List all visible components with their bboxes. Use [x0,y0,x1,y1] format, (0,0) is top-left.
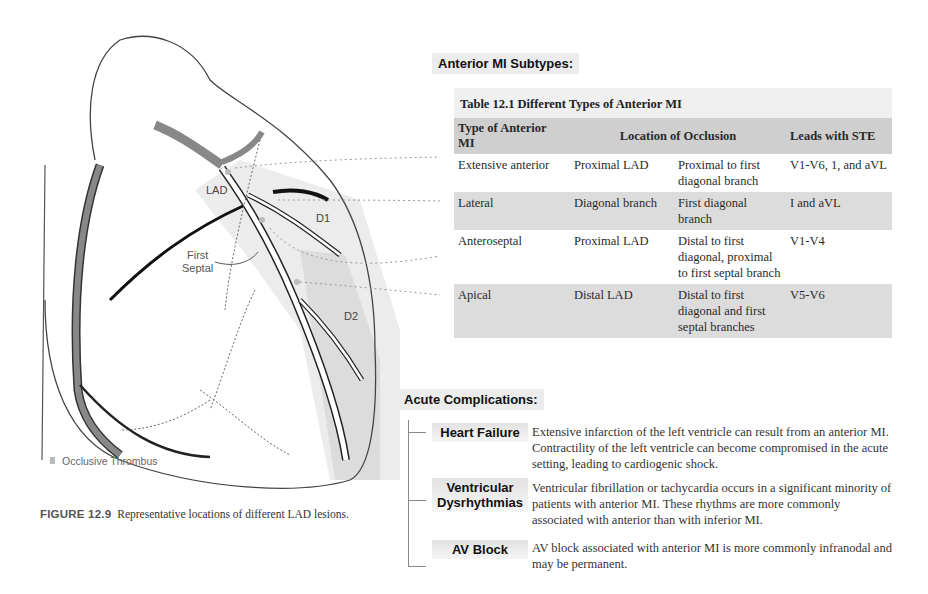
tree-branch [408,566,426,567]
cell-vessel: Distal LAD [570,284,674,338]
cell-vessel: Proximal LAD [570,154,674,192]
table-title: Table 12.1 Different Types of Anterior M… [454,88,892,118]
header-location: Location of Occlusion [570,118,786,154]
table-row: Extensive anterior Proximal LAD Proximal… [454,154,892,192]
complication-text-heart-failure: Extensive infarction of the left ventric… [532,424,892,472]
label-line-2: Dysrhythmias [432,495,528,510]
left-main-artery [155,125,222,165]
figure-caption: FIGURE 12.9Representative locations of d… [40,508,349,520]
complications-tree-line [408,420,409,566]
d2-label: D2 [344,310,358,322]
table-row: Anteroseptal Proximal LAD Distal to firs… [454,230,892,284]
complication-label-av-block: AV Block [432,540,528,559]
complication-label-dysrhythmias: Ventricular Dysrhythmias [432,478,528,512]
cell-leads: I and aVL [786,192,892,230]
tree-branch [408,500,426,501]
subtypes-heading: Anterior MI Subtypes: [432,53,579,74]
cell-leads: V1-V4 [786,230,892,284]
complication-text-av-block: AV block associated with anterior MI is … [532,540,892,572]
first-septal-label-1: First [187,249,208,261]
table-row: Lateral Diagonal branch First diagonal b… [454,192,892,230]
cell-type: Apical [454,284,570,338]
tree-branch [408,432,426,433]
header-type: Type of Anterior MI [454,118,570,154]
pointer-extensive [235,157,440,168]
subtypes-table: Type of Anterior MI Location of Occlusio… [454,118,892,338]
figure-number: FIGURE 12.9 [40,508,111,520]
cell-location: Distal to first diagonal, proximal to fi… [674,230,786,284]
subtypes-table-panel: Table 12.1 Different Types of Anterior M… [454,88,892,338]
pericardium-line [42,165,45,460]
table-header-row: Type of Anterior MI Location of Occlusio… [454,118,892,154]
cell-location: Proximal to first diagonal branch [674,154,786,192]
complications-heading: Acute Complications: [398,389,544,410]
thrombus-legend-swatch [50,457,55,464]
lad-label: LAD [206,184,227,196]
d1-label: D1 [316,212,330,224]
thrombus-legend-label: Occlusive Thrombus [62,455,158,467]
cell-leads: V5-V6 [786,284,892,338]
cell-vessel: Proximal LAD [570,230,674,284]
thrombus-marker [225,169,231,175]
header-leads: Leads with STE [786,118,892,154]
complication-label-heart-failure: Heart Failure [432,423,528,442]
label-line-1: Ventricular [432,480,528,495]
cell-vessel: Diagonal branch [570,192,674,230]
cell-location: First diagonal branch [674,192,786,230]
figure-caption-text: Representative locations of different LA… [117,508,349,520]
cell-type: Extensive anterior [454,154,570,192]
cell-location: Distal to first diagonal and first septa… [674,284,786,338]
marginal-artery [80,385,210,457]
cell-type: Anteroseptal [454,230,570,284]
first-septal-label-2: Septal [182,262,213,274]
table-row: Apical Distal LAD Distal to first diagon… [454,284,892,338]
cell-type: Lateral [454,192,570,230]
complication-text-dysrhythmias: Ventricular fibrillation or tachycardia … [532,480,892,528]
heart-coronary-diagram: LAD D1 D2 First Septal Occlusive Thrombu… [0,0,440,500]
cell-leads: V1-V6, 1, and aVL [786,154,892,192]
